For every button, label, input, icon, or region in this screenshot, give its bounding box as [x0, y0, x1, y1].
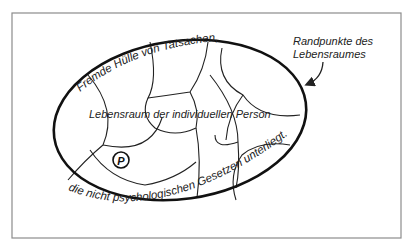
- person-marker: P: [113, 152, 129, 168]
- callout-line-2: Lebensraumes: [293, 48, 366, 60]
- person-label: P: [117, 155, 125, 167]
- lewin-life-space-diagram: Fremde Hülle von Tatsachen, die nicht ps…: [0, 0, 410, 248]
- center-label: Lebensraum der individuellen Person: [89, 108, 271, 120]
- bottom-arc-label: die nicht psychologischen Gesetzen unter…: [67, 127, 289, 203]
- callout-line-1: Randpunkte des: [293, 35, 374, 47]
- callout-arrow-icon: [308, 62, 323, 84]
